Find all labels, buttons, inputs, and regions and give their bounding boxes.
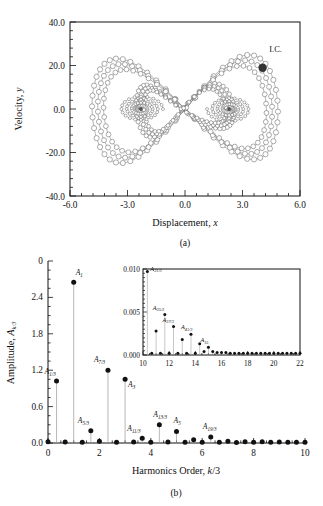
- panel-b-inset: 0.010 0.005 0.000 10 12 14 16 18 20 22 A…: [123, 265, 304, 368]
- panel-a-ytick-4: -40.0: [46, 192, 66, 202]
- panel-a-phase-portrait: -6.0 -3.0 0.0 3.0 6.0 40.0 20.0 0.0 -20.…: [0, 0, 323, 253]
- panel-a-ytick-1: 20.0: [49, 61, 66, 71]
- svg-text:A13/3: A13/3: [152, 410, 167, 420]
- panel-b-ytick-4: 0.6: [31, 402, 43, 412]
- panel-a-xtick-1: -3.0: [120, 200, 135, 210]
- panel-a-xtick-3: 3.0: [237, 200, 249, 210]
- panel-a-xtick-2: 0.0: [179, 200, 191, 210]
- panel-b-label: (b): [170, 487, 181, 499]
- phase-trajectory: [89, 52, 280, 165]
- panel-a-ytick-2: 0.0: [53, 105, 65, 115]
- panel-b-xtick-4: 8: [251, 448, 256, 458]
- inset-xtick-6: 22: [296, 359, 304, 368]
- panel-b-ytick-3: 1.2: [31, 365, 43, 375]
- inset-ytick-0: 0.010: [123, 265, 140, 274]
- panel-b-xtick-2: 4: [148, 448, 153, 458]
- panel-b-xtick-1: 2: [97, 448, 102, 458]
- inset-xtick-0: 10: [139, 359, 147, 368]
- inset-ytick-1: 0.005: [123, 308, 140, 317]
- panel-b-xtick-0: 0: [46, 448, 51, 458]
- inset-xtick-2: 14: [192, 359, 200, 368]
- panel-a-y-axis-title: Velocity, y: [13, 87, 24, 130]
- svg-text:A1: A1: [75, 268, 83, 278]
- panel-a-x-ticks: [70, 190, 300, 196]
- svg-text:A1/3: A1/3: [44, 367, 57, 377]
- panel-b-ytick-5: 0.0: [31, 438, 43, 448]
- panel-b-y-axis-title: Amplitude, Ak/3: [5, 322, 17, 385]
- svg-text:A5: A5: [173, 416, 182, 426]
- panel-a-ytick-3: -20.0: [46, 148, 66, 158]
- panel-b-ytick-2: 1.8: [31, 329, 43, 339]
- inset-ytick-2: 0.000: [123, 351, 140, 360]
- panel-b-xtick-3: 6: [200, 448, 205, 458]
- panel-a-xtick-4: 6.0: [294, 200, 306, 210]
- svg-text:A7/3: A7/3: [93, 355, 106, 365]
- panel-b-amplitude-spectrum: 0 2.4 1.8 1.2 0.6 0.0 0 2 4 6 8 10 Harmo…: [0, 253, 323, 506]
- inset-xtick-1: 12: [166, 359, 174, 368]
- panel-a-ytick-0: 40.0: [49, 18, 66, 28]
- panel-b-svg: 0 2.4 1.8 1.2 0.6 0.0 0 2 4 6 8 10 Harmo…: [0, 253, 323, 506]
- panel-b-ytick-0: 0: [38, 256, 43, 266]
- inset-xtick-4: 18: [244, 359, 252, 368]
- panel-b-xtick-5: 10: [300, 448, 310, 458]
- svg-text:A5/3: A5/3: [77, 416, 90, 426]
- panel-a-xtick-0: -6.0: [63, 200, 78, 210]
- inset-xtick-5: 20: [270, 359, 278, 368]
- panel-a-label: (a): [180, 237, 191, 249]
- inset-xtick-3: 16: [218, 359, 226, 368]
- figure-container: -6.0 -3.0 0.0 3.0 6.0 40.0 20.0 0.0 -20.…: [0, 0, 323, 506]
- svg-text:A3: A3: [127, 380, 136, 390]
- panel-b-x-axis-title: Harmonics Order, k/3: [132, 465, 220, 476]
- panel-b-ytick-1: 2.4: [31, 292, 43, 302]
- panel-a-y-ticks: [70, 22, 76, 196]
- panel-a-svg: -6.0 -3.0 0.0 3.0 6.0 40.0 20.0 0.0 -20.…: [0, 0, 323, 253]
- initial-condition-label: I.C.: [269, 45, 282, 54]
- initial-condition-marker: [258, 63, 266, 71]
- svg-text:A19/3: A19/3: [202, 422, 217, 432]
- panel-a-x-axis-title: Displacement, x: [152, 217, 218, 228]
- svg-text:A11/3: A11/3: [126, 424, 141, 434]
